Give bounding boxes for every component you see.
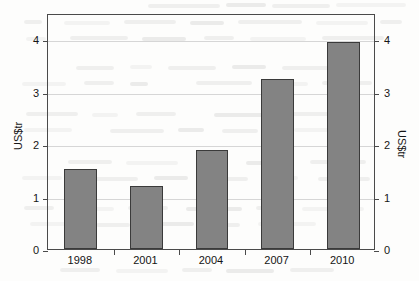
y-tick-label-right: 3 (384, 88, 406, 99)
y-tick-mark-right (374, 94, 379, 95)
y-tick-label-left: 4 (17, 35, 39, 46)
x-tick-mark (245, 250, 246, 255)
y-tick-mark-right (374, 41, 379, 42)
gridline (48, 41, 374, 42)
bar-2010 (327, 42, 360, 249)
y-tick-label-left: 2 (17, 140, 39, 151)
x-tick-mark (179, 250, 180, 255)
plot-area (48, 15, 374, 249)
bar-2001 (130, 186, 163, 249)
x-tick-label-1998: 1998 (47, 255, 113, 266)
bar-chart-figure: US$tr US$tr 01234 01234 1998200120042007… (0, 0, 419, 281)
x-tick-mark (114, 250, 115, 255)
y-tick-mark-left (43, 94, 48, 95)
y-tick-mark-right (374, 199, 379, 200)
y-tick-mark-left (43, 41, 48, 42)
y-tick-label-right: 1 (384, 193, 406, 204)
y-tick-label-right: 4 (384, 35, 406, 46)
y-tick-mark-right (374, 251, 379, 252)
y-tick-label-right: 2 (384, 140, 406, 151)
bar-2007 (261, 79, 294, 249)
bar-1998 (64, 169, 97, 249)
x-tick-label-2007: 2007 (244, 255, 310, 266)
y-tick-label-left: 1 (17, 193, 39, 204)
x-tick-mark (310, 250, 311, 255)
bar-2004 (196, 150, 229, 249)
y-tick-label-left: 0 (17, 245, 39, 256)
y-tick-mark-left (43, 199, 48, 200)
x-tick-label-2004: 2004 (178, 255, 244, 266)
y-tick-mark-left (43, 251, 48, 252)
y-tick-mark-left (43, 146, 48, 147)
gridline (48, 146, 374, 147)
y-tick-mark-right (374, 146, 379, 147)
plot-frame (47, 14, 375, 250)
gridline (48, 94, 374, 95)
y-tick-label-left: 3 (17, 88, 39, 99)
x-tick-label-2010: 2010 (309, 255, 375, 266)
x-tick-label-2001: 2001 (113, 255, 179, 266)
y-tick-label-right: 0 (384, 245, 406, 256)
